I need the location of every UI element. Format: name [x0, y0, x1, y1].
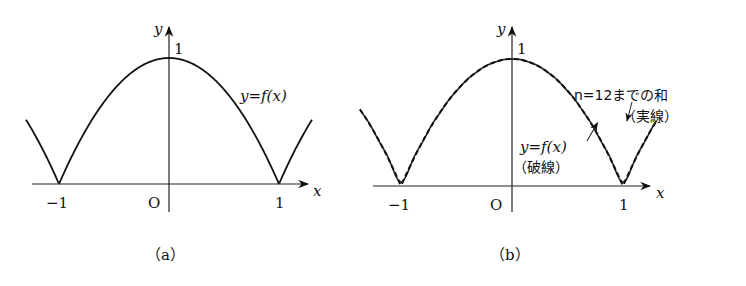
curve-partial-sum: [360, 59, 656, 182]
panel-a: x y 1 O −1 1 y=f(x) （a）: [26, 20, 322, 264]
origin-label: O: [148, 194, 160, 212]
f-label-line1: y=f(x): [519, 138, 567, 156]
y-tick-1: 1: [517, 40, 527, 58]
figure: x y 1 O −1 1 y=f(x) （a） x y 1 O −1 1 n=1…: [0, 0, 746, 286]
x-tick-neg1: −1: [46, 194, 68, 212]
sum-label-line2: （実線）: [622, 108, 678, 124]
y-tick-1: 1: [174, 40, 184, 58]
curve-label: y=f(x): [239, 87, 287, 105]
f-label-line2: （破線）: [513, 159, 569, 175]
x-tick-1: 1: [619, 196, 629, 214]
origin-label: O: [490, 196, 502, 214]
x-tick-1: 1: [275, 194, 285, 212]
x-axis-label: x: [656, 184, 665, 202]
x-axis-label: x: [313, 182, 322, 200]
sum-label-line1: n=12までの和: [574, 87, 668, 103]
y-axis-label: y: [496, 20, 506, 38]
caption-a: （a）: [146, 246, 185, 264]
panel-b: x y 1 O −1 1 n=12までの和 （実線） y=f(x) （破線） （…: [360, 20, 678, 264]
curve-f-dashed: [360, 59, 656, 185]
x-tick-neg1: −1: [388, 196, 410, 214]
caption-b: （b）: [490, 246, 530, 264]
y-axis-label: y: [153, 20, 163, 38]
